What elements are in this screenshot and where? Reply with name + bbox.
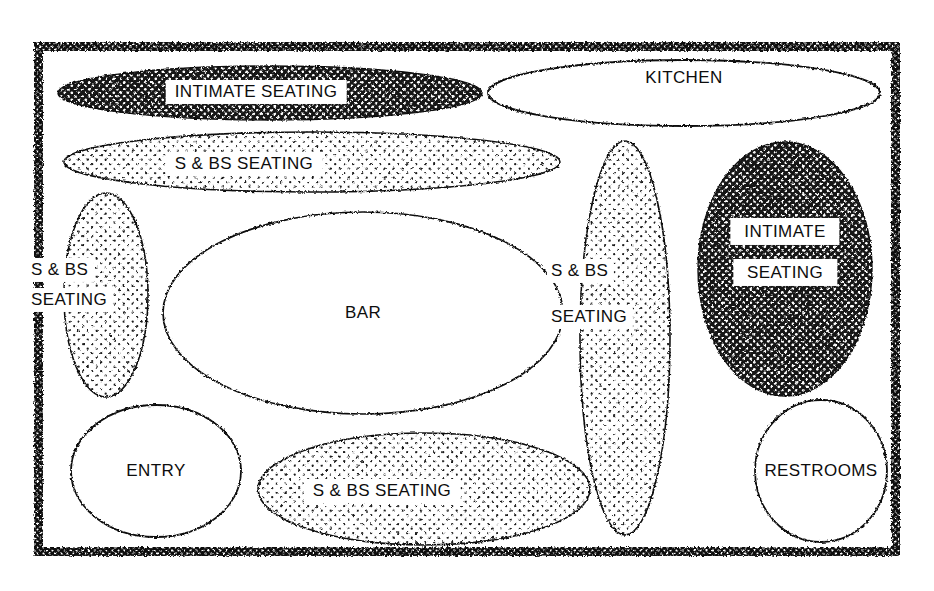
zone-label-intimate-seating-right: INTIMATE SEATING — [730, 218, 839, 286]
zone-label-line: SEATING — [733, 259, 837, 286]
zone-label-line: S & BS — [547, 259, 614, 283]
zone-label-s-bs-seating-left: S & BS SEATING — [27, 258, 113, 312]
zone-label-s-bs-seating-right: S & BS SEATING — [547, 259, 633, 329]
zone-label-kitchen: KITCHEN — [645, 68, 722, 87]
zone-label-s-bs-seating-bottom: S & BS SEATING — [304, 479, 461, 503]
zone-label-line: SEATING — [547, 305, 633, 329]
zone-label-line: SEATING — [27, 288, 113, 312]
zone-label-bar: BAR — [345, 303, 381, 322]
floor-plan-canvas — [0, 0, 934, 591]
zone-label-line: INTIMATE — [730, 218, 839, 245]
zone-label-restrooms: RESTROOMS — [764, 461, 877, 480]
zone-label-entry: ENTRY — [126, 461, 185, 480]
zone-label-s-bs-seating-top: S & BS SEATING — [166, 152, 323, 176]
zone-s-bs-seating-right — [580, 141, 670, 535]
zone-label-intimate-seating-top: INTIMATE SEATING — [166, 80, 347, 104]
zone-label-line: S & BS — [27, 258, 94, 282]
floor-plan-diagram: INTIMATE SEATING KITCHEN S & BS SEATING … — [0, 0, 934, 591]
